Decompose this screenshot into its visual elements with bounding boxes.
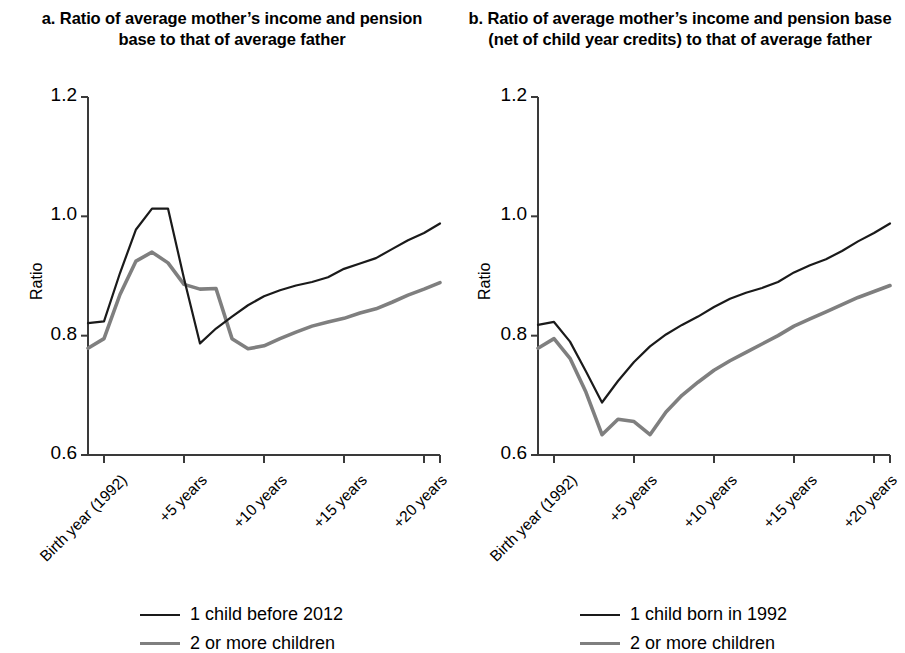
- panel-b: b. Ratio of average mother’s income and …: [453, 0, 905, 653]
- legend-label: 2 or more children: [630, 633, 775, 653]
- panel-a-y-axis-label: Ratio: [28, 263, 46, 300]
- panel-a: a. Ratio of average mother’s income and …: [0, 0, 452, 653]
- panel-b-y-axis-label: Ratio: [476, 263, 494, 300]
- y-tick-label: 1.0: [475, 203, 527, 225]
- y-tick-label: 1.0: [25, 203, 77, 225]
- y-tick-label: 0.8: [25, 323, 77, 345]
- legend-item: 1 child born in 1992: [580, 600, 787, 629]
- legend-line-swatch-gray: [140, 642, 180, 645]
- y-tick-label: 1.2: [475, 84, 527, 106]
- figure-container: a. Ratio of average mother’s income and …: [0, 0, 905, 653]
- panel-b-plot: Ratio 0.60.81.01.2Birth year (1992)+5 ye…: [453, 0, 905, 480]
- legend-item: 2 or more children: [140, 629, 343, 653]
- legend-line-swatch-black: [140, 614, 180, 616]
- legend-label: 1 child before 2012: [190, 604, 343, 625]
- y-tick-label: 0.8: [475, 323, 527, 345]
- legend-label: 2 or more children: [190, 633, 335, 653]
- y-tick-label: 1.2: [25, 84, 77, 106]
- panel-b-legend: 1 child born in 1992 2 or more children: [580, 600, 787, 653]
- panel-a-plot: Ratio 0.60.81.01.2Birth year (1992)+5 ye…: [0, 0, 452, 480]
- legend-item: 2 or more children: [580, 629, 787, 653]
- panel-a-svg: [0, 0, 452, 480]
- y-tick-label: 0.6: [25, 442, 77, 464]
- legend-item: 1 child before 2012: [140, 600, 343, 629]
- panel-a-legend: 1 child before 2012 2 or more children: [140, 600, 343, 653]
- legend-line-swatch-gray: [580, 642, 620, 645]
- legend-label: 1 child born in 1992: [630, 604, 787, 625]
- y-tick-label: 0.6: [475, 442, 527, 464]
- legend-line-swatch-black: [580, 614, 620, 616]
- panel-b-svg: [453, 0, 905, 480]
